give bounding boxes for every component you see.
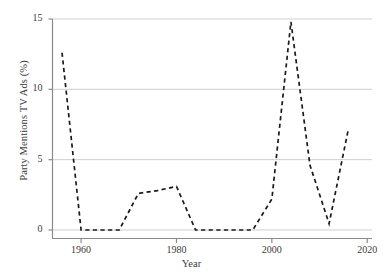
y-axis-title: Party Mentions TV Ads (%) bbox=[18, 21, 29, 221]
y-tick-label: 10 bbox=[17, 82, 43, 93]
x-tick-label: 2020 bbox=[343, 244, 383, 255]
y-tick-label: 15 bbox=[17, 12, 43, 23]
tickmarks-group bbox=[49, 19, 368, 243]
x-tick-label: 2000 bbox=[248, 244, 296, 255]
plot-canvas bbox=[0, 0, 383, 278]
gridlines-group bbox=[53, 19, 373, 230]
chart-container: Party Mentions TV Ads (%) Year 051015 19… bbox=[0, 0, 383, 278]
data-series-line bbox=[62, 22, 348, 230]
y-tick-label: 0 bbox=[17, 223, 43, 234]
x-tick-label: 1960 bbox=[57, 244, 105, 255]
y-tick-label: 5 bbox=[17, 153, 43, 164]
x-axis-title: Year bbox=[0, 258, 383, 269]
x-tick-label: 1980 bbox=[152, 244, 200, 255]
